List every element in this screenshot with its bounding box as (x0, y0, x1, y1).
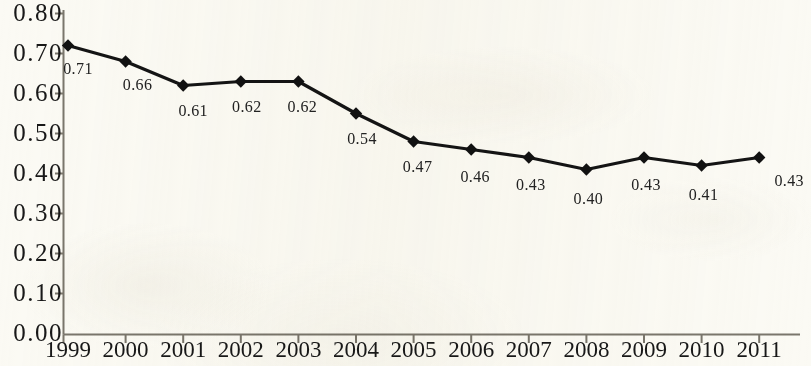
data-point-label: 0.41 (689, 186, 719, 204)
x-axis-tick-label: 2004 (333, 337, 379, 363)
y-axis-tick-label: 0.80 (9, 0, 63, 27)
data-point-marker (292, 75, 304, 87)
data-point-marker (465, 143, 477, 155)
x-axis-tick-label: 2008 (563, 337, 609, 363)
data-point-label: 0.40 (574, 190, 604, 208)
y-axis-tick-label: 0.20 (9, 239, 63, 267)
x-axis-tick-label: 2009 (621, 337, 667, 363)
y-axis-tick-label: 0.10 (9, 279, 63, 307)
y-axis-tick-label: 0.40 (9, 159, 63, 187)
data-point-label: 0.43 (774, 172, 804, 190)
data-point-label: 0.47 (403, 158, 433, 176)
data-point-marker (580, 163, 592, 175)
data-point-label: 0.61 (178, 102, 208, 120)
data-point-marker (177, 79, 189, 91)
x-axis-tick-label: 2001 (160, 337, 206, 363)
line-chart: 0.800.700.600.500.400.300.200.100.00 199… (0, 0, 811, 366)
x-axis-tick-label: 2000 (103, 337, 149, 363)
data-point-marker (350, 107, 362, 119)
y-axis-tick-label: 0.60 (9, 79, 63, 107)
data-point-marker (235, 75, 247, 87)
series-line (68, 46, 759, 170)
x-axis-tick-label: 2002 (218, 337, 264, 363)
plot-area (0, 0, 811, 366)
data-point-label: 0.71 (63, 60, 93, 78)
x-axis-tick-label: 2010 (679, 337, 725, 363)
x-axis-tick-label: 2005 (391, 337, 437, 363)
y-axis-tick-label: 0.70 (9, 39, 63, 67)
data-point-label: 0.54 (347, 130, 377, 148)
data-point-label: 0.43 (631, 176, 661, 194)
data-point-marker (523, 151, 535, 163)
x-axis-tick-label: 1999 (45, 337, 91, 363)
data-point-label: 0.62 (232, 98, 262, 116)
data-point-label: 0.62 (288, 98, 318, 116)
y-axis-tick-label: 0.30 (9, 199, 63, 227)
data-point-marker (695, 159, 707, 171)
data-point-marker (753, 151, 765, 163)
data-point-marker (407, 135, 419, 147)
y-axis-tick-label: 0.50 (9, 119, 63, 147)
x-axis-tick-label: 2011 (737, 337, 782, 363)
data-point-marker (638, 151, 650, 163)
data-point-marker (119, 55, 131, 67)
data-point-label: 0.46 (460, 168, 490, 186)
series-markers (62, 39, 766, 175)
x-axis-tick-label: 2003 (275, 337, 321, 363)
x-axis-tick-label: 2007 (506, 337, 552, 363)
data-point-label: 0.66 (123, 76, 153, 94)
data-point-label: 0.43 (516, 176, 546, 194)
x-axis-tick-label: 2006 (448, 337, 494, 363)
